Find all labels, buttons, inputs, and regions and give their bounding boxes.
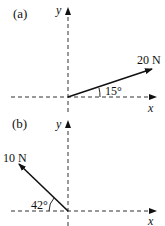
angle-label-b: 42° [31,199,48,211]
x-axis-label-b: x [148,215,153,226]
force-label-a: 20 N [137,54,161,66]
y-axis-label-a: y [56,4,61,16]
y-axis-label-b: y [56,118,61,130]
force-label-b: 10 N [3,152,27,164]
x-axis-label-a: x [148,102,153,114]
angle-arc-a [99,88,100,97]
vector-diagrams [0,0,165,226]
angle-arc-b [49,198,54,211]
panel-b-label: (b) [12,118,27,130]
panel-a-label: (a) [13,8,27,20]
panel-a [11,8,156,112]
angle-label-a: 15° [105,85,122,97]
